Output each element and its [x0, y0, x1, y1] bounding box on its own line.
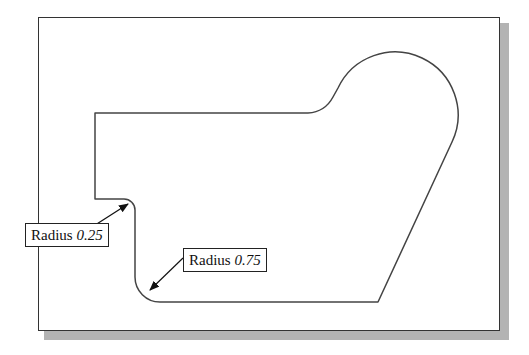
part-outline	[95, 52, 458, 302]
leader-arrow-radius-0-75	[150, 258, 183, 290]
callout-value: 0.25	[76, 227, 102, 243]
callout-radius-0-75: Radius 0.75	[183, 248, 267, 272]
drawing-canvas	[0, 0, 529, 355]
callout-value: 0.75	[234, 252, 260, 268]
callout-label: Radius	[31, 227, 76, 243]
callout-radius-0-25: Radius 0.25	[25, 223, 109, 247]
callout-label: Radius	[189, 252, 234, 268]
